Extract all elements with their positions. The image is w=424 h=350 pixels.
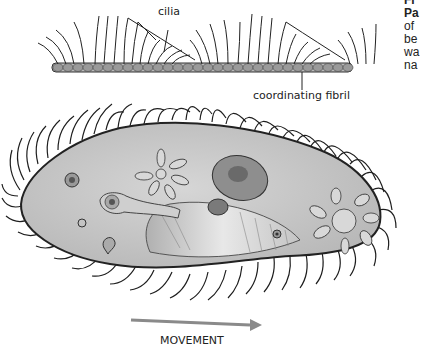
movement-arrow xyxy=(131,319,262,331)
cilia-label: cilia xyxy=(158,5,180,18)
cilia-strip xyxy=(38,14,376,90)
micronucleus xyxy=(208,199,228,215)
movement-label: MOVEMENT xyxy=(160,334,224,347)
caption-line-6: na xyxy=(404,59,417,72)
coordinating-fibril-label: coordinating fibril xyxy=(253,89,350,102)
paramecium-body xyxy=(2,104,396,300)
paramecium-diagram xyxy=(0,0,424,350)
